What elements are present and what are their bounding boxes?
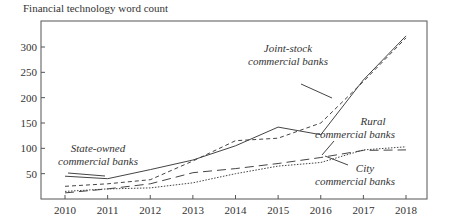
annotation-label: commercial banks: [315, 175, 395, 187]
annotation-label: Joint-stock: [264, 42, 313, 54]
annotation-leader: [322, 141, 334, 155]
annotation-label: City: [356, 162, 374, 174]
annotation-leader: [68, 173, 105, 176]
line-chart: 5010015020025030020102011201220132014201…: [0, 0, 449, 221]
x-tick-label: 2013: [182, 204, 205, 216]
y-tick-label: 250: [21, 66, 38, 78]
y-tick-label: 200: [21, 92, 38, 104]
x-tick-label: 2012: [139, 204, 161, 216]
y-tick-label: 150: [21, 117, 38, 129]
annotation-label: State-owned: [71, 142, 126, 154]
annotation-label: commercial banks: [58, 155, 138, 167]
x-tick-label: 2017: [352, 204, 375, 216]
x-tick-label: 2010: [54, 204, 77, 216]
annotation-label: Rural: [359, 115, 385, 127]
annotation-label: commercial banks: [315, 128, 395, 140]
y-tick-label: 100: [21, 142, 38, 154]
annotation-label: commercial banks: [248, 55, 328, 67]
x-tick-label: 2015: [267, 204, 290, 216]
x-tick-label: 2014: [225, 204, 248, 216]
y-tick-label: 300: [21, 41, 38, 53]
x-tick-label: 2011: [97, 204, 119, 216]
annotation-leader: [301, 84, 332, 98]
x-tick-label: 2016: [310, 204, 333, 216]
y-tick-label: 50: [26, 168, 38, 180]
x-tick-label: 2018: [395, 204, 418, 216]
